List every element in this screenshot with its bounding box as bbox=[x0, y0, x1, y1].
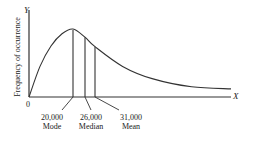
x-axis-letter: X bbox=[232, 91, 239, 101]
marker-value-mean: 31,000 bbox=[120, 113, 142, 122]
marker-name-mode: Mode bbox=[43, 122, 62, 131]
leader-line-mode bbox=[62, 97, 73, 110]
marker-value-median: 26,000 bbox=[80, 113, 102, 122]
origin-label: 0 bbox=[26, 100, 30, 109]
marker-name-mean: Mean bbox=[122, 122, 140, 131]
y-axis-label: Frequency of occurrence bbox=[13, 17, 22, 97]
leader-line-mean bbox=[95, 97, 119, 110]
marker-value-mode: 20,000 bbox=[41, 113, 63, 122]
marker-group: 20,000Mode26,000Median31,000Mean bbox=[41, 30, 142, 131]
skewed-distribution-chart: Y X 0 Frequency of occurrence 20,000Mode… bbox=[0, 0, 254, 147]
distribution-curve bbox=[29, 29, 231, 97]
leader-line-median bbox=[85, 97, 91, 110]
marker-name-median: Median bbox=[79, 122, 103, 131]
